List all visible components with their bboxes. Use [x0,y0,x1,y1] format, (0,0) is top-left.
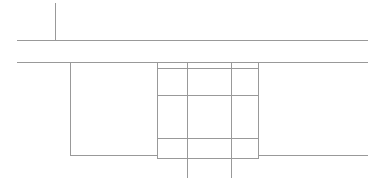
technical-drawing-canvas [0,0,382,188]
drawing-svg-root [0,0,382,188]
drawing-lines-layer [17,3,368,178]
